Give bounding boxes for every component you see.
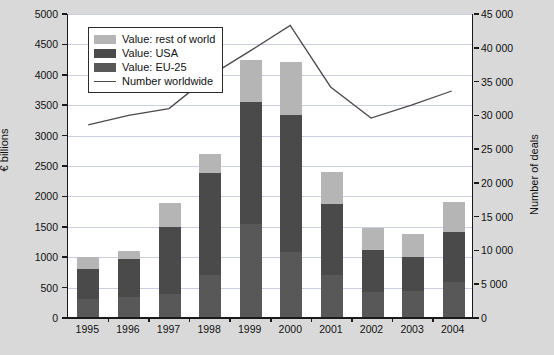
x-axis-tick <box>189 317 191 322</box>
legend-item-label: Value: USA <box>122 48 178 59</box>
y-axis-right-tick <box>474 317 479 319</box>
y-axis-right-tick-label: 15 000 <box>481 212 537 222</box>
x-axis-tick-label: 2004 <box>427 323 479 335</box>
y-axis-right-tick-label: 25 000 <box>481 144 537 154</box>
y-axis-left-tick-label: 3000 <box>18 131 58 141</box>
y-axis-right-tick <box>474 250 479 252</box>
x-axis-tick <box>108 317 110 322</box>
y-axis-left-tick <box>62 44 67 46</box>
legend-item: Value: EU-25 <box>94 60 215 74</box>
y-axis-right-tick <box>474 216 479 218</box>
line-swatch-icon <box>94 77 116 86</box>
y-axis-right-tick <box>474 182 479 184</box>
y-axis-right-tick-label: 10 000 <box>481 245 537 255</box>
chart-container: € billions Number of deals Value: rest o… <box>0 0 554 355</box>
y-axis-right-tick <box>474 13 479 15</box>
legend-item: Value: rest of world <box>94 32 215 46</box>
y-axis-right-tick <box>474 47 479 49</box>
y-axis-left-tick <box>62 196 67 198</box>
y-axis-left-tick <box>62 135 67 137</box>
y-axis-right-tick <box>474 283 479 285</box>
y-axis-right-tick-label: 0 <box>481 313 537 323</box>
y-axis-right-tick <box>474 148 479 150</box>
y-axis-left-tick-label: 2000 <box>18 191 58 201</box>
x-axis-tick <box>229 317 231 322</box>
y-axis-left-tick-label: 1000 <box>18 252 58 262</box>
x-axis-tick <box>392 317 394 322</box>
medium-gray-swatch-icon <box>94 63 116 72</box>
y-axis-right-tick-label: 35 000 <box>481 77 537 87</box>
y-axis-title-left: € billions <box>0 129 10 172</box>
x-axis-tick <box>311 317 313 322</box>
y-axis-right-tick-label: 45 000 <box>481 9 537 19</box>
y-axis-left-tick-label: 1500 <box>18 222 58 232</box>
legend-item-label: Value: EU-25 <box>122 62 187 73</box>
legend-item-label: Number worldwide <box>122 76 213 87</box>
x-axis-tick <box>148 317 150 322</box>
y-axis-right-tick-label: 5 000 <box>481 279 537 289</box>
y-axis-left-tick-label: 4500 <box>18 39 58 49</box>
y-axis-left-tick-label: 0 <box>18 313 58 323</box>
x-axis-tick <box>432 317 434 322</box>
legend: Value: rest of world Value: USA Value: E… <box>88 27 223 93</box>
legend-item: Number worldwide <box>94 74 215 88</box>
y-axis-right-tick-label: 30 000 <box>481 110 537 120</box>
legend-item: Value: USA <box>94 46 215 60</box>
y-axis-left-tick <box>62 74 67 76</box>
y-axis-left-tick-label: 5000 <box>18 9 58 19</box>
y-axis-left-tick-label: 3500 <box>18 100 58 110</box>
y-axis-left-tick <box>62 104 67 106</box>
y-axis-right-tick <box>474 115 479 117</box>
y-axis-right-tick-label: 20 000 <box>481 178 537 188</box>
y-axis-left-tick <box>62 226 67 228</box>
x-axis-tick <box>270 317 272 322</box>
y-axis-right-tick-label: 40 000 <box>481 43 537 53</box>
plot-area: Value: rest of world Value: USA Value: E… <box>67 14 473 318</box>
y-axis-left-tick-label: 4000 <box>18 70 58 80</box>
dark-gray-swatch-icon <box>94 49 116 58</box>
x-axis-tick <box>351 317 353 322</box>
y-axis-left-tick <box>62 317 67 319</box>
y-axis-left-tick <box>62 287 67 289</box>
y-axis-left-tick <box>62 165 67 167</box>
y-axis-left-tick <box>62 13 67 15</box>
light-gray-swatch-icon <box>94 35 116 44</box>
y-axis-left-tick-label: 500 <box>18 283 58 293</box>
y-axis-left-tick-label: 2500 <box>18 161 58 171</box>
y-axis-left-tick <box>62 256 67 258</box>
legend-item-label: Value: rest of world <box>122 34 215 45</box>
y-axis-right-tick <box>474 81 479 83</box>
